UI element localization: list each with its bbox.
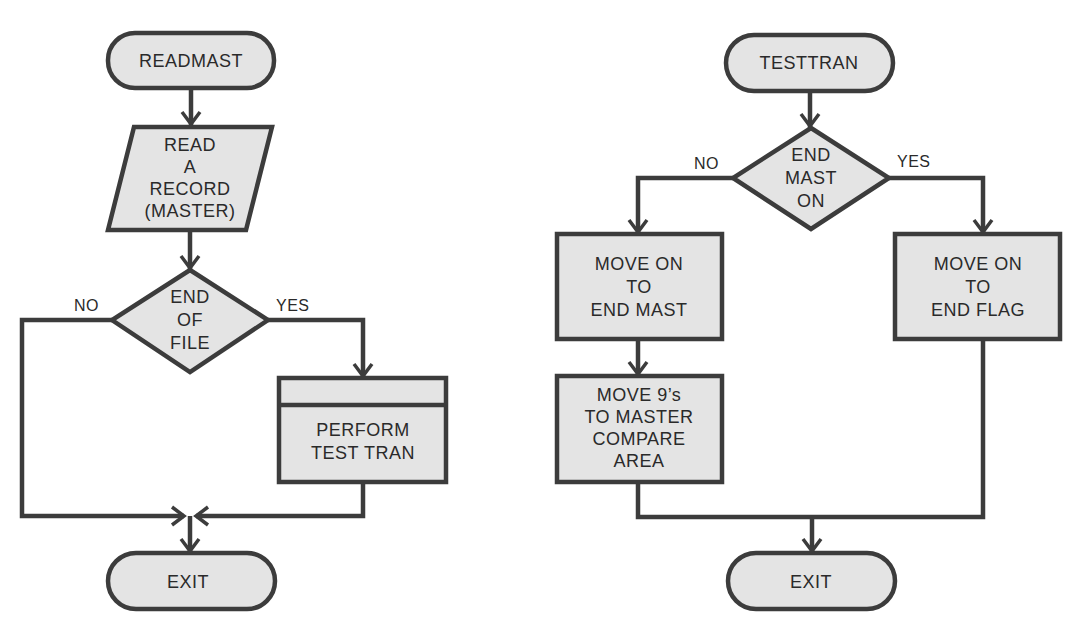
left-flowchart: READMAST READ A RECORD (MASTER) END OF F… bbox=[22, 33, 446, 609]
process-line-3: END MAST bbox=[590, 300, 687, 320]
yes-label: YES bbox=[276, 297, 310, 314]
perform-test-tran-process: PERFORM TEST TRAN bbox=[279, 378, 446, 482]
yes-label: YES bbox=[897, 153, 931, 170]
process-line-1: MOVE ON bbox=[934, 254, 1023, 274]
left-exit-terminal: EXIT bbox=[108, 553, 275, 609]
process-line-1: PERFORM bbox=[316, 420, 410, 440]
process-line-2: TO bbox=[626, 277, 652, 297]
process-line-3: COMPARE bbox=[592, 429, 685, 449]
decision-line-3: FILE bbox=[170, 333, 210, 353]
input-line-1: READ bbox=[164, 135, 216, 155]
input-line-3: RECORD bbox=[149, 179, 230, 199]
read-record-input: READ A RECORD (MASTER) bbox=[108, 127, 272, 230]
readmast-terminal: READMAST bbox=[108, 33, 274, 88]
testtran-label: TESTTRAN bbox=[759, 53, 858, 73]
right-flowchart: TESTTRAN END MAST ON NO YES MOVE ON TO E… bbox=[557, 35, 1060, 609]
readmast-label: READMAST bbox=[139, 51, 243, 71]
process-line-4: AREA bbox=[613, 451, 664, 471]
left-exit-label: EXIT bbox=[167, 572, 209, 592]
end-mast-on-decision: END MAST ON bbox=[733, 128, 889, 229]
process-line-1: MOVE ON bbox=[595, 254, 684, 274]
decision-line-1: END bbox=[170, 287, 210, 307]
right-exit-label: EXIT bbox=[790, 572, 832, 592]
move-nines-process: MOVE 9’s TO MASTER COMPARE AREA bbox=[557, 376, 722, 482]
end-of-file-decision: END OF FILE bbox=[112, 270, 268, 372]
move-on-end-flag-process: MOVE ON TO END FLAG bbox=[895, 234, 1060, 339]
input-line-2: A bbox=[184, 157, 197, 177]
process-line-3: END FLAG bbox=[931, 300, 1025, 320]
decision-line-1: END bbox=[791, 145, 831, 165]
process-line-2: TEST TRAN bbox=[311, 443, 415, 463]
right-exit-terminal: EXIT bbox=[728, 553, 895, 609]
no-label: NO bbox=[694, 155, 719, 172]
no-label: NO bbox=[74, 297, 99, 314]
flowchart-canvas: READMAST READ A RECORD (MASTER) END OF F… bbox=[0, 0, 1073, 630]
process-line-1: MOVE 9’s bbox=[597, 385, 682, 405]
process-line-2: TO bbox=[965, 277, 991, 297]
move-on-end-mast-process: MOVE ON TO END MAST bbox=[557, 234, 722, 339]
decision-line-2: MAST bbox=[785, 168, 837, 188]
input-line-4: (MASTER) bbox=[145, 201, 236, 221]
decision-line-2: OF bbox=[177, 310, 203, 330]
process-line-2: TO MASTER bbox=[584, 407, 693, 427]
testtran-terminal: TESTTRAN bbox=[726, 35, 893, 91]
decision-line-3: ON bbox=[797, 191, 825, 211]
